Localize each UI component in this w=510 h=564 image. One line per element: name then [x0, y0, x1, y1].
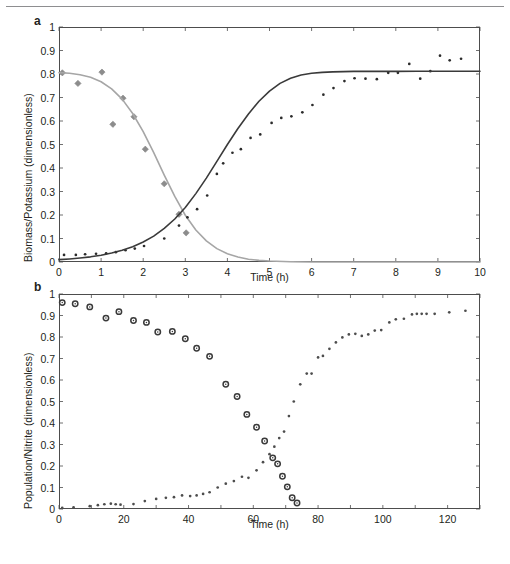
series-potassium-data: [59, 69, 189, 236]
y-tick-label: 0.8: [17, 68, 55, 80]
y-tick-label: 0.9: [17, 310, 55, 322]
panel-b-y-axis-title: Population/Nitrite (dimensionless): [22, 353, 34, 509]
series-biomass-data: [63, 54, 463, 256]
panel-b-plot-area: [59, 294, 480, 509]
panel-b-data-layer: [59, 294, 480, 509]
y-tick-label: 0.9: [17, 45, 55, 57]
panel-b-x-axis-title: Time (h): [59, 518, 480, 530]
panel-b: b 00.10.20.30.40.50.60.70.80.91 02040608…: [0, 278, 510, 564]
panel-a-plot-area: [59, 27, 480, 262]
header-divider: [6, 6, 504, 7]
series-nitrite-data: [60, 300, 300, 506]
series-population-data: [61, 309, 467, 509]
y-tick-label: 1: [17, 288, 55, 300]
y-tick-label: 1: [17, 21, 55, 33]
panel-a-data-layer: [59, 27, 480, 262]
series-potassium-model: [59, 73, 480, 262]
y-tick-label: 0.8: [17, 331, 55, 343]
panel-a: a 00.10.20.30.40.50.60.70.80.91 01234567…: [0, 14, 510, 292]
panel-a-y-axis-title: Biomass/Potassium (dimensionless): [22, 93, 34, 262]
